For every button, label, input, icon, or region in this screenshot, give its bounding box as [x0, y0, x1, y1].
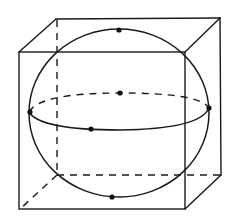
cube-edge-top-left	[19, 19, 56, 52]
point-bottom	[109, 194, 114, 199]
cube-edge-top-right	[185, 18, 220, 52]
point-left	[27, 109, 32, 114]
sphere-equator-front	[29, 108, 209, 130]
sphere-outline	[29, 29, 209, 197]
cube-hidden-bottom-left-edge	[20, 175, 57, 209]
sphere-equator-back	[29, 93, 209, 112]
cube-sphere-diagram	[0, 0, 238, 222]
point-right	[206, 105, 211, 110]
cube-back-right-edge	[220, 18, 221, 175]
diagram-svg	[0, 0, 238, 222]
point-top	[116, 27, 121, 32]
cube-edge-bottom-right	[185, 175, 221, 209]
cube-back-top-edge	[56, 18, 220, 19]
cube-front-face	[19, 52, 185, 209]
point-center	[117, 90, 122, 95]
point-front	[88, 126, 93, 131]
